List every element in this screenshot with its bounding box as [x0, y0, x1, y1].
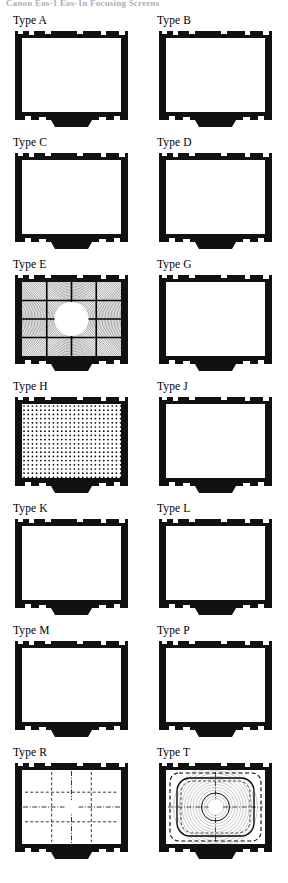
screen-cell-type-g[interactable]: Type G: [144, 258, 288, 380]
screen-frame: [15, 153, 128, 249]
screen-row: Type RType T: [0, 746, 288, 868]
screen-frame: [15, 397, 128, 493]
screen-cell-type-e[interactable]: Type E: [0, 258, 144, 380]
screen-label-type-d: Type D: [157, 136, 192, 149]
screen-row: Type KType L: [0, 502, 288, 624]
screen-illustration-type-b: [157, 29, 274, 134]
screen-illustration-type-h: [13, 395, 130, 500]
screen-label-type-m: Type M: [13, 624, 50, 637]
screen-cell-type-h[interactable]: Type H: [0, 380, 144, 502]
screen-cell-type-m[interactable]: Type M: [0, 624, 144, 746]
screen-cell-type-b[interactable]: Type B: [144, 14, 288, 136]
screen-illustration-type-t: [157, 761, 274, 866]
screen-illustration-type-c: [13, 151, 130, 256]
screen-cell-type-k[interactable]: Type K: [0, 502, 144, 624]
screen-row: Type MType P: [0, 624, 288, 746]
screen-row: Type HType J: [0, 380, 288, 502]
screen-label-type-j: Type J: [157, 380, 188, 393]
screen-illustration-type-m: [13, 639, 130, 744]
page-title: Canon Eos-1 Eos-1n Focusing Screens: [6, 0, 159, 8]
screen-label-type-e: Type E: [13, 258, 46, 271]
focusing-screen-grid: Type AType BType CType DType EType GType…: [0, 14, 288, 868]
screen-cell-type-t[interactable]: Type T: [144, 746, 288, 868]
screen-label-type-l: Type L: [157, 502, 190, 515]
screen-cell-type-l[interactable]: Type L: [144, 502, 288, 624]
screen-label-type-k: Type K: [13, 502, 48, 515]
screen-illustration-type-d: [157, 151, 274, 256]
screen-illustration-type-g: [157, 273, 274, 378]
screen-row: Type CType D: [0, 136, 288, 258]
screen-cell-type-r[interactable]: Type R: [0, 746, 144, 868]
screen-label-type-g: Type G: [157, 258, 192, 271]
screen-illustration-type-l: [157, 517, 274, 622]
screen-label-type-p: Type P: [157, 624, 190, 637]
screen-label-type-b: Type B: [157, 14, 191, 27]
screen-cell-type-p[interactable]: Type P: [144, 624, 288, 746]
screen-frame: [159, 153, 272, 249]
screen-illustration-type-e: [13, 273, 130, 378]
screen-label-type-c: Type C: [13, 136, 47, 149]
screen-cell-type-c[interactable]: Type C: [0, 136, 144, 258]
screen-label-type-a: Type A: [13, 14, 47, 27]
screen-frame: [159, 641, 272, 737]
screen-label-type-h: Type H: [13, 380, 48, 393]
screen-illustration-type-p: [157, 639, 274, 744]
screen-label-type-r: Type R: [13, 746, 47, 759]
screen-label-type-t: Type T: [157, 746, 190, 759]
screen-cell-type-j[interactable]: Type J: [144, 380, 288, 502]
screen-illustration-type-a: [13, 29, 130, 134]
screen-frame: [159, 31, 272, 127]
screen-illustration-type-r: [13, 761, 130, 866]
screen-cell-type-a[interactable]: Type A: [0, 14, 144, 136]
screen-row: Type AType B: [0, 14, 288, 136]
screen-cell-type-d[interactable]: Type D: [144, 136, 288, 258]
screen-illustration-type-k: [13, 517, 130, 622]
screen-illustration-type-j: [157, 395, 274, 500]
screen-row: Type EType G: [0, 258, 288, 380]
